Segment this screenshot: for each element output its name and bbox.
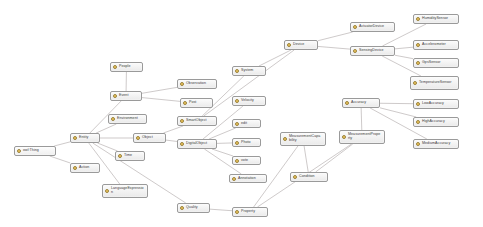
graph-node-low-accuracy[interactable]: LowAccuracy (413, 99, 459, 109)
graph-node-label: Velocity (241, 99, 262, 103)
graph-edge (163, 126, 183, 133)
graph-node-action[interactable]: Action (70, 163, 100, 173)
owl-class-icon (113, 94, 117, 98)
graph-node-accelerometer[interactable]: Accelerometer (413, 40, 459, 50)
graph-node-temperature-sensor[interactable]: TemperatureSensor (410, 76, 459, 90)
graph-node-object[interactable]: Object (133, 133, 166, 143)
owl-class-icon (416, 142, 420, 146)
graph-node-medium-accuracy[interactable]: MediumAccuracy (413, 139, 459, 149)
graph-edge (259, 50, 291, 66)
graph-edge (210, 209, 232, 211)
owl-class-icon (345, 101, 349, 105)
graph-node-label: vote (241, 159, 257, 163)
owl-class-icon (416, 17, 420, 21)
owl-class-icon (235, 122, 239, 126)
graph-edge (380, 108, 416, 117)
graph-node-high-accuracy[interactable]: HighAccuracy (413, 117, 459, 127)
owl-class-icon (113, 65, 117, 69)
graph-node-smart-object[interactable]: SmartObject (177, 116, 217, 126)
graph-node-label: HighAccuracy (422, 120, 455, 124)
graph-edge (96, 124, 116, 133)
graph-edge (50, 156, 71, 163)
graph-node-owl-thing[interactable]: owl:Thing (14, 146, 56, 156)
graph-node-label: Condition (299, 175, 324, 179)
graph-node-language-expression[interactable]: LanguageExpression (102, 184, 148, 198)
graph-node-condition[interactable]: Condition (290, 172, 328, 182)
graph-node-label: Entity (79, 136, 96, 140)
graph-node-vote[interactable]: vote (232, 156, 261, 165)
owl-class-icon (105, 189, 109, 193)
owl-class-icon (73, 166, 77, 170)
owl-class-icon (183, 101, 187, 105)
owl-class-icon (111, 117, 115, 121)
graph-node-label: Action (79, 166, 96, 170)
owl-class-icon (180, 119, 184, 123)
graph-node-entity[interactable]: Entity (70, 133, 100, 143)
graph-node-label: edit (241, 122, 257, 126)
graph-edge (361, 108, 362, 130)
graph-node-gps-sensor[interactable]: GpsSensor (413, 58, 459, 68)
owl-class-icon (235, 69, 239, 73)
graph-node-label: Quality (186, 206, 206, 210)
graph-edge (316, 144, 353, 172)
graph-edge (166, 140, 177, 141)
graph-node-quality[interactable]: Quality (177, 203, 210, 213)
graph-node-environment[interactable]: Environment (108, 114, 147, 124)
graph-node-actuator-device[interactable]: ActuatorDevice (350, 22, 395, 32)
graph-node-property[interactable]: Property (232, 207, 268, 217)
graph-node-annotation[interactable]: Annotation (229, 174, 267, 183)
graph-node-label: MeasurementProperty (348, 133, 381, 141)
owl-class-icon (353, 25, 357, 29)
graph-node-label: Property (241, 210, 264, 214)
graph-node-label: GpsSensor (422, 61, 455, 65)
owl-class-icon (232, 177, 236, 181)
graph-node-label: MeasurementCapability (289, 135, 322, 143)
graph-node-measurement-capability[interactable]: MeasurementCapability (280, 132, 326, 146)
graph-node-label: System (241, 69, 262, 73)
graph-node-label: LowAccuracy (422, 102, 455, 106)
graph-node-measurement-property[interactable]: MeasurementProperty (339, 130, 385, 144)
graph-node-velocity[interactable]: Velocity (232, 96, 266, 106)
graph-node-photo[interactable]: Photo (232, 138, 261, 147)
graph-node-label: People (119, 65, 139, 69)
owl-class-icon (136, 136, 140, 140)
graph-node-label: Object (142, 136, 162, 140)
graph-node-label: ActuatorDevice (359, 25, 391, 29)
graph-node-system[interactable]: System (232, 66, 266, 76)
graph-edge (395, 55, 413, 58)
graph-edge (318, 46, 350, 49)
graph-node-sensing-device[interactable]: SensingDevice (350, 46, 395, 56)
graph-node-label: Event (119, 94, 138, 98)
graph-edge (209, 128, 236, 139)
owl-class-icon (353, 49, 357, 53)
graph-node-time[interactable]: Time (115, 151, 145, 161)
graph-node-device[interactable]: Device (284, 40, 318, 50)
owl-class-icon (73, 136, 77, 140)
graph-node-label: Time (124, 154, 141, 158)
graph-node-edit[interactable]: edit (232, 119, 261, 128)
graph-node-label: TemperatureSensor (419, 81, 455, 85)
graph-edge (304, 146, 308, 172)
graph-node-observation[interactable]: Observation (177, 79, 217, 89)
owl-class-icon (180, 206, 184, 210)
owl-class-icon (413, 81, 417, 85)
graph-node-event[interactable]: Event (110, 91, 142, 101)
graph-edge (395, 47, 413, 49)
graph-node-label: Accelerometer (422, 43, 455, 47)
graph-edge (142, 87, 177, 93)
graph-node-people[interactable]: People (110, 62, 143, 72)
graph-node-accuracy[interactable]: Accuracy (342, 98, 380, 108)
graph-edge (204, 50, 294, 116)
graph-node-humidity-sensor[interactable]: HumiditySensor (413, 14, 459, 24)
owl-class-icon (293, 175, 297, 179)
ontology-graph-canvas[interactable]: owl:ThingEntityActionEventEnvironmentObj… (0, 0, 483, 227)
graph-node-label: HumiditySensor (422, 17, 455, 21)
owl-class-icon (416, 120, 420, 124)
graph-node-label: SmartObject (186, 119, 213, 123)
graph-node-label: LanguageExpression (111, 187, 144, 195)
graph-node-label: SensingDevice (359, 49, 391, 53)
graph-node-digital-object[interactable]: DigitalObject (177, 139, 217, 149)
graph-node-post[interactable]: Post (180, 98, 213, 108)
graph-edge (212, 149, 233, 156)
owl-class-icon (235, 159, 239, 163)
